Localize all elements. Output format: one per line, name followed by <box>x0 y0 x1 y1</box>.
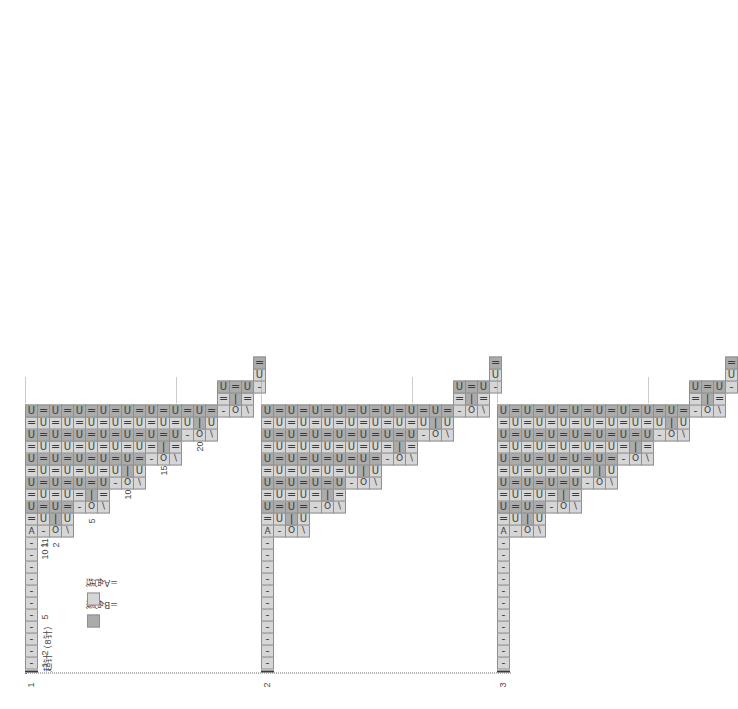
chart-cell: - <box>497 548 510 561</box>
cell-symbol: U <box>500 454 507 463</box>
cell-symbol: U <box>288 502 295 511</box>
cell-symbol: | <box>326 490 330 499</box>
chart-cell: \ <box>205 428 218 441</box>
cell-symbol: \ <box>610 478 613 487</box>
chart-cell: - <box>497 608 510 621</box>
cell-symbol: = <box>263 466 272 475</box>
cell-symbol: = <box>75 418 84 427</box>
cell-symbol: = <box>371 454 380 463</box>
chart-cell: - <box>261 656 274 669</box>
cell-symbol: U <box>644 430 651 439</box>
cell-symbol: U <box>608 442 615 451</box>
cell-symbol: | <box>398 442 402 451</box>
cell-symbol: U <box>584 466 591 475</box>
cell-symbol: O <box>632 454 639 463</box>
cell-symbol: = <box>111 454 120 463</box>
cell-symbol: - <box>30 574 34 583</box>
chart-cell: = <box>253 356 266 369</box>
chart-cell: = <box>477 392 490 405</box>
chart-cell: \ <box>713 404 726 417</box>
cell-symbol: = <box>691 394 700 403</box>
cell-symbol: U <box>360 430 367 439</box>
cell-symbol: = <box>407 442 416 451</box>
cell-symbol: - <box>266 574 270 583</box>
cell-symbol: O <box>52 526 59 535</box>
chart-cell: \ <box>569 500 582 513</box>
cell-symbol: = <box>39 502 48 511</box>
cell-symbol: = <box>219 394 228 403</box>
cell-symbol: = <box>299 454 308 463</box>
cell-symbol: = <box>123 418 132 427</box>
cell-symbol: | <box>54 514 58 523</box>
cell-symbol: U <box>312 454 319 463</box>
cell-symbol: U <box>512 466 519 475</box>
cell-symbol: = <box>347 406 356 415</box>
cell-symbol: U <box>124 430 131 439</box>
cell-symbol: = <box>383 418 392 427</box>
row-guide-dotted <box>412 377 413 405</box>
cell-symbol: U <box>348 466 355 475</box>
cell-symbol: A <box>264 526 270 535</box>
cell-symbol: - <box>266 562 270 571</box>
cell-symbol: U <box>536 442 543 451</box>
cell-symbol: - <box>502 658 506 667</box>
cell-symbol: U <box>548 454 555 463</box>
cell-symbol: U <box>336 454 343 463</box>
cell-symbol: U <box>184 418 191 427</box>
chart-cell: = <box>489 356 502 369</box>
cell-symbol: = <box>263 442 272 451</box>
chart-cell: U <box>533 512 546 525</box>
cell-symbol: = <box>147 418 156 427</box>
cell-symbol: U <box>512 442 519 451</box>
cell-symbol: = <box>99 466 108 475</box>
cell-symbol: U <box>524 406 531 415</box>
cell-symbol: U <box>584 442 591 451</box>
cell-symbol: U <box>52 454 59 463</box>
cell-symbol: U <box>512 514 519 523</box>
chart-cell: U <box>441 416 454 429</box>
cell-symbol: U <box>148 406 155 415</box>
cell-symbol: - <box>266 550 270 559</box>
cell-symbol: U <box>100 430 107 439</box>
cell-symbol: U <box>28 406 35 415</box>
row-guide-dotted <box>497 377 498 405</box>
cell-symbol: = <box>727 358 736 367</box>
cell-symbol: = <box>51 442 60 451</box>
cell-symbol: = <box>275 454 284 463</box>
cell-symbol: = <box>75 442 84 451</box>
cell-symbol: U <box>548 406 555 415</box>
cell-symbol: U <box>40 490 47 499</box>
cell-symbol: U <box>644 406 651 415</box>
cell-symbol: = <box>299 502 308 511</box>
cell-symbol: U <box>64 418 71 427</box>
cell-symbol: A <box>500 526 506 535</box>
cell-symbol: = <box>371 406 380 415</box>
cell-symbol: = <box>547 490 556 499</box>
cell-symbol: U <box>300 490 307 499</box>
cell-symbol: = <box>643 442 652 451</box>
cell-symbol: U <box>620 430 627 439</box>
cell-symbol: = <box>511 502 520 511</box>
cell-symbol: U <box>608 418 615 427</box>
chart-cell: U <box>253 368 266 381</box>
cell-symbol: - <box>350 478 354 487</box>
cell-symbol: U <box>136 418 143 427</box>
cell-symbol: = <box>619 442 628 451</box>
cell-symbol: U <box>656 418 663 427</box>
cell-symbol: - <box>658 430 662 439</box>
cell-symbol: U <box>680 418 687 427</box>
chart-cell: \ <box>333 500 346 513</box>
cell-symbol: = <box>275 406 284 415</box>
cell-symbol: U <box>28 454 35 463</box>
cell-symbol: U <box>220 382 227 391</box>
chart-cell: - <box>261 560 274 573</box>
cell-symbol: U <box>64 514 71 523</box>
row-number-label: 10 <box>123 489 133 499</box>
cell-symbol: = <box>499 514 508 523</box>
cell-symbol: U <box>300 442 307 451</box>
cell-symbol: - <box>502 634 506 643</box>
cell-symbol: O <box>396 454 403 463</box>
chart-cell: - <box>25 632 38 645</box>
cell-symbol: = <box>383 442 392 451</box>
cell-symbol: | <box>634 442 638 451</box>
